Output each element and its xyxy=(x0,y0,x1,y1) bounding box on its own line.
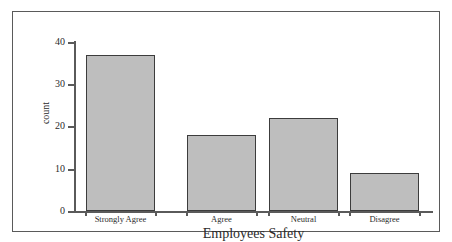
bar-agree xyxy=(187,135,256,211)
y-tick-label-30: 30 xyxy=(43,79,65,89)
x-tick-label-strongly-agree: Strongly Agree xyxy=(76,215,165,224)
x-tick-label-neutral: Neutral xyxy=(259,215,348,224)
bar-neutral xyxy=(269,118,338,211)
y-tick-label-0: 0 xyxy=(43,206,65,216)
x-tick-label-agree: Agree xyxy=(177,215,266,224)
x-axis-title: Employees Safety xyxy=(74,226,433,241)
y-tick-label-40: 40 xyxy=(43,37,65,47)
y-tick-mark-40 xyxy=(68,42,74,44)
y-axis-title: count xyxy=(41,102,51,124)
figure-frame: 40 30 20 10 0 Strongly Agree Agree Neutr… xyxy=(12,11,440,232)
y-tick-mark-10 xyxy=(68,169,74,171)
y-tick-label-10: 10 xyxy=(43,164,65,174)
y-axis-line xyxy=(74,41,76,212)
x-tick-label-disagree: Disagree xyxy=(340,215,429,224)
bar-strongly-agree xyxy=(86,55,155,211)
x-axis-line xyxy=(74,211,433,213)
y-tick-mark-30 xyxy=(68,84,74,86)
y-tick-mark-20 xyxy=(68,126,74,128)
bar-disagree xyxy=(350,173,419,211)
